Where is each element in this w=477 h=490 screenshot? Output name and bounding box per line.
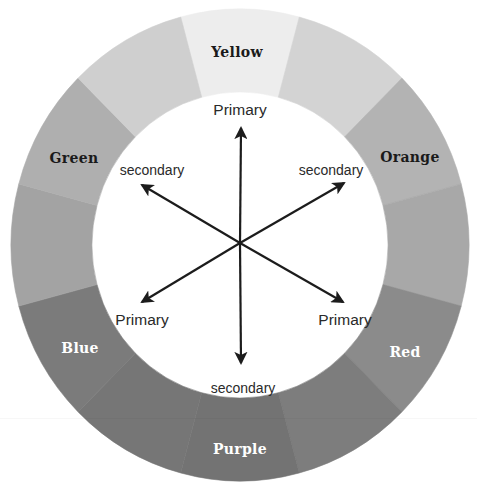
segment-label-yellow: Yellow xyxy=(210,44,263,60)
axis-label-upper-left: secondary xyxy=(120,162,185,178)
segment-red-orange xyxy=(383,184,469,306)
segment-label-orange: Orange xyxy=(380,149,439,165)
axis-label-lower-right: Primary xyxy=(318,311,372,328)
segment-blue-green xyxy=(11,184,97,306)
arrow-lower-right-icon xyxy=(240,243,343,302)
axis-labels: PrimarysecondaryPrimarysecondaryPrimarys… xyxy=(115,101,372,396)
arrow-lower-left-icon xyxy=(142,243,240,302)
segment-label-red: Red xyxy=(389,344,420,360)
segment-label-purple: Purple xyxy=(213,441,267,457)
axis-label-lower-left: Primary xyxy=(115,311,169,328)
axis-label-up: Primary xyxy=(213,101,267,118)
segment-label-blue: Blue xyxy=(61,340,98,356)
segment-label-green: Green xyxy=(50,150,99,166)
arrow-upper-right-icon xyxy=(240,183,344,243)
axis-label-upper-right: secondary xyxy=(299,162,364,178)
axis-label-down: secondary xyxy=(211,380,276,396)
arrow-upper-left-icon xyxy=(142,185,240,243)
color-wheel-diagram: YellowOrangeRedPurpleBlueGreen Primaryse… xyxy=(0,0,477,490)
scan-artifact-line xyxy=(0,418,477,419)
arrow-up-icon xyxy=(240,128,241,243)
arrow-down-icon xyxy=(240,243,241,363)
